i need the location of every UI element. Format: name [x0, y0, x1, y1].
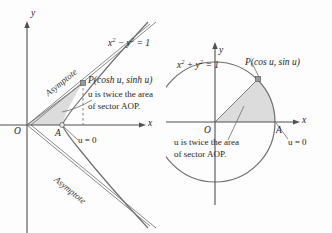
circular-sector-shading	[215, 79, 275, 122]
right-vertex-label: A	[276, 125, 282, 136]
left-u-zero-label: u = 0	[78, 135, 97, 146]
y-axis-arrow	[24, 21, 29, 28]
eq-plus-y: + y	[184, 60, 199, 70]
right-note-line-2: of sector AOP.	[174, 149, 226, 160]
x-axis-arrow	[139, 122, 146, 127]
right-x-axis-label: x	[302, 115, 306, 126]
point-p-marker	[256, 77, 261, 82]
eq-equals-one: = 1	[203, 60, 219, 70]
eq-minus-y: − y	[115, 38, 130, 48]
point-p-marker	[81, 81, 86, 86]
point-a-marker	[60, 123, 65, 128]
right-origin-label: O	[204, 125, 211, 136]
right-u-zero-label: u = 0	[288, 137, 307, 148]
right-note-line-1: u is twice the area	[174, 137, 239, 148]
left-origin-label: O	[14, 126, 21, 137]
eq-equals-one: = 1	[134, 38, 150, 48]
left-y-axis-label: y	[31, 8, 35, 19]
right-y-axis-label: y	[219, 45, 223, 56]
left-vertex-label: A	[55, 128, 61, 139]
x-axis-arrow	[293, 119, 300, 124]
left-note-line-1: u is twice the area	[88, 89, 153, 100]
figure-container: y x O A x2 − y2 = 1 P(cosh u, sinh u) u …	[0, 0, 332, 233]
left-point-p-label: P(cosh u, sinh u)	[88, 75, 152, 86]
left-x-axis-label: x	[148, 118, 152, 129]
y-axis-arrow	[212, 42, 217, 49]
circle-graphic	[166, 0, 332, 233]
left-note-line-2: of sector AOP.	[88, 101, 140, 112]
right-point-p-label: P(cos u, sin u)	[245, 57, 300, 68]
right-equation-label: x2 + y2 = 1	[177, 58, 219, 71]
left-equation-label: x2 − y2 = 1	[108, 36, 150, 49]
